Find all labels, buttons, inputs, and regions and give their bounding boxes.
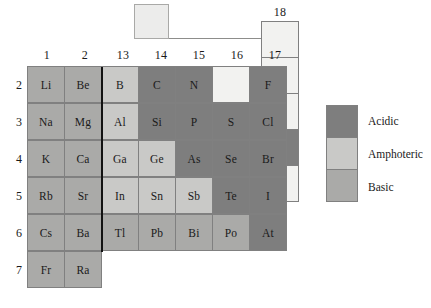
group-header-16: 16 — [218, 48, 256, 63]
empty-slot — [138, 251, 176, 288]
empty-slot — [249, 251, 287, 288]
element-cell-Rb[interactable]: Rb — [27, 177, 65, 214]
empty-slot — [101, 251, 139, 288]
element-cell-Bi[interactable]: Bi — [175, 214, 213, 251]
element-cell-Br[interactable]: Br — [249, 140, 287, 177]
element-cell-Po[interactable]: Po — [212, 214, 250, 251]
hydrogen-cell — [134, 4, 169, 39]
period-label-2: 2 — [12, 67, 26, 104]
element-cell-Se[interactable]: Se — [212, 140, 250, 177]
period-row-2: LiBeBCNF — [28, 67, 287, 104]
group-header-2: 2 — [66, 48, 104, 63]
element-cell-Na[interactable]: Na — [27, 103, 65, 140]
hydrogen-helium-connector-line — [169, 38, 261, 39]
group-header-18: 18 — [261, 5, 299, 20]
empty-slot — [175, 251, 213, 288]
element-cell-Sn[interactable]: Sn — [138, 177, 176, 214]
period-row-6: CsBaTlPbBiPoAt — [28, 215, 287, 252]
legend-label-basic: Basic — [368, 171, 423, 204]
element-cell-Te[interactable]: Te — [212, 177, 250, 214]
element-cell-Li[interactable]: Li — [27, 66, 65, 103]
period-label-3: 3 — [12, 104, 26, 141]
legend-swatch-amphoteric — [326, 137, 358, 170]
element-cell-K[interactable]: K — [27, 140, 65, 177]
group-header-row: 121314151617 — [28, 48, 294, 63]
period-label-7: 7 — [12, 252, 26, 289]
element-cell-Cs[interactable]: Cs — [27, 214, 65, 251]
period-row-7: FrRa — [28, 252, 287, 289]
group-header-1: 1 — [28, 48, 66, 63]
legend-label-amphoteric: Amphoteric — [368, 138, 423, 171]
element-cell-Mg[interactable]: Mg — [64, 103, 102, 140]
element-cell-C[interactable]: C — [138, 66, 176, 103]
element-cell-Tl[interactable]: Tl — [101, 214, 139, 251]
element-cell-N[interactable]: N — [175, 66, 213, 103]
periodic-table-figure: 18 Xe 121314151617 234567 LiBeBCNFNaMgAl… — [0, 0, 431, 308]
period-row-3: NaMgAlSiPSCl — [28, 104, 287, 141]
element-cell-B[interactable]: B — [101, 66, 139, 103]
element-cell-Al[interactable]: Al — [101, 103, 139, 140]
empty-slot — [212, 251, 250, 288]
element-cell-Ra[interactable]: Ra — [64, 251, 102, 288]
element-cell-S[interactable]: S — [212, 103, 250, 140]
period-row-4: KCaGaGeAsSeBr — [28, 141, 287, 178]
element-cell-Ca[interactable]: Ca — [64, 140, 102, 177]
period-label-column: 234567 — [12, 67, 26, 289]
legend-swatch-basic — [326, 169, 358, 202]
legend-label-acidic: Acidic — [368, 105, 423, 138]
element-cell-Si[interactable]: Si — [138, 103, 176, 140]
legend-label-stack: AcidicAmphotericBasic — [368, 105, 423, 204]
element-cell-P[interactable]: P — [175, 103, 213, 140]
element-cell-At[interactable]: At — [249, 214, 287, 251]
group-header-17: 17 — [256, 48, 294, 63]
group2-group13-divider-line — [101, 67, 103, 252]
element-cell-blank[interactable] — [212, 66, 250, 103]
period-label-5: 5 — [12, 178, 26, 215]
element-cell-Fr[interactable]: Fr — [27, 251, 65, 288]
element-cell-Be[interactable]: Be — [64, 66, 102, 103]
element-cell-Ga[interactable]: Ga — [101, 140, 139, 177]
element-cell-Ge[interactable]: Ge — [138, 140, 176, 177]
element-cell-In[interactable]: In — [101, 177, 139, 214]
element-cell-F[interactable]: F — [249, 66, 287, 103]
element-cell-Sb[interactable]: Sb — [175, 177, 213, 214]
element-cell-As[interactable]: As — [175, 140, 213, 177]
legend-swatch-acidic — [326, 105, 358, 138]
element-cell-Sr[interactable]: Sr — [64, 177, 102, 214]
element-cell-Cl[interactable]: Cl — [249, 103, 287, 140]
period-row-5: RbSrInSnSbTeI — [28, 178, 287, 215]
group-header-14: 14 — [142, 48, 180, 63]
element-grid: LiBeBCNFNaMgAlSiPSClKCaGaGeAsSeBrRbSrInS… — [28, 67, 287, 289]
group-header-13: 13 — [104, 48, 142, 63]
period-label-4: 4 — [12, 141, 26, 178]
element-cell-Ba[interactable]: Ba — [64, 214, 102, 251]
element-cell-Pb[interactable]: Pb — [138, 214, 176, 251]
element-cell-I[interactable]: I — [249, 177, 287, 214]
group-header-15: 15 — [180, 48, 218, 63]
period-label-6: 6 — [12, 215, 26, 252]
legend-swatch-stack — [326, 105, 358, 202]
